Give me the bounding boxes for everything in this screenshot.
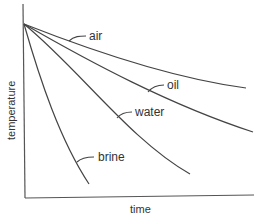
axes (23, 4, 254, 198)
brine-pointer (77, 157, 94, 162)
x-axis (25, 195, 254, 198)
oil-label: oil (167, 78, 179, 92)
brine-label: brine (98, 150, 125, 164)
air-pointer (69, 36, 86, 41)
y-axis-label: temperature (5, 81, 17, 140)
water-label: water (134, 105, 164, 119)
x-axis-label: time (130, 203, 151, 215)
air-label: air (89, 29, 102, 43)
y-axis (23, 4, 25, 198)
air-curve (24, 24, 246, 88)
curves (24, 24, 253, 184)
cooling-curves-chart: air oil water brine time temperature (0, 0, 263, 222)
